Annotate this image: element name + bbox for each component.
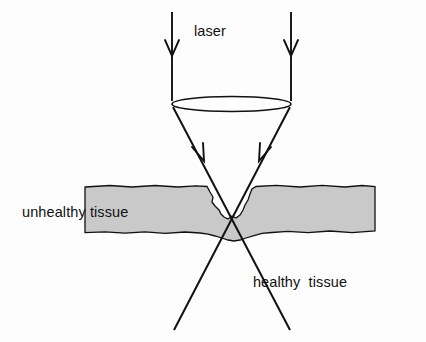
tissue-band-shape xyxy=(85,185,375,241)
diagram-canvas: laser unhealthy tissue healthy tissue xyxy=(0,0,426,342)
focusing-lens xyxy=(172,97,291,112)
unhealthy-tissue-band xyxy=(85,185,375,241)
healthy-tissue-label: healthy tissue xyxy=(253,274,347,290)
lens-ellipse xyxy=(172,97,291,112)
laser-tissue-diagram: laser unhealthy tissue healthy tissue xyxy=(0,0,426,342)
laser-label: laser xyxy=(194,23,226,39)
incoming-laser-beams xyxy=(165,12,298,101)
unhealthy-tissue-label: unhealthy tissue xyxy=(22,204,128,220)
